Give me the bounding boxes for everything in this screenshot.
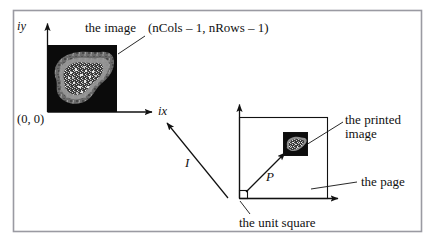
page-space-group	[240, 105, 358, 215]
image-far-corner-label: (nCols – 1, nRows – 1)	[148, 21, 269, 35]
image-space-group	[47, 24, 152, 113]
printed-image-leader-line	[306, 122, 343, 145]
corner-leader-line	[118, 36, 145, 54]
origin-label: (0, 0)	[17, 113, 44, 126]
the-page-label: the page	[361, 175, 405, 189]
image-mapping-arrow	[167, 123, 228, 198]
page-leader-line	[311, 182, 357, 189]
iy-axis-label: iy	[17, 20, 26, 33]
fractal-image-thumbnail	[47, 45, 117, 112]
page-mapping-label: P	[266, 170, 274, 184]
figure-canvas: iy ix (0, 0) the image (nCols – 1, nRows…	[0, 0, 435, 246]
page-rectangle	[240, 118, 328, 199]
image-mapping-label: I	[185, 156, 189, 170]
printed-image-label: the printed image	[345, 113, 401, 141]
unit-square-label: the unit square	[239, 216, 316, 230]
printed-image-thumbnail	[284, 133, 308, 156]
the-image-label: the image	[85, 21, 136, 35]
unit-square-leader-line	[240, 201, 250, 214]
ix-axis-label: ix	[158, 105, 167, 118]
